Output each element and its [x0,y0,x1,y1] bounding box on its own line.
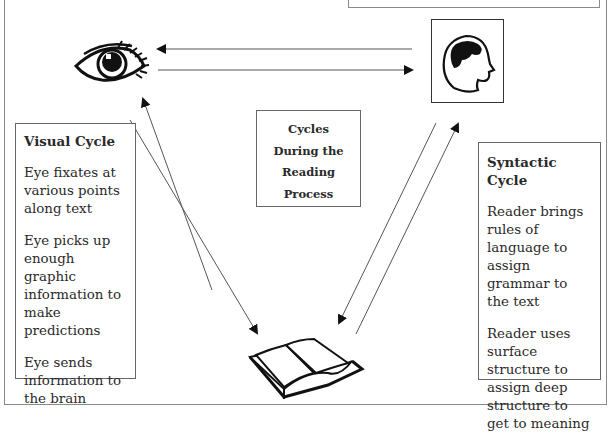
open-book-icon [244,327,370,403]
arrow-book-to-eye [143,99,212,290]
brain-node [431,19,504,103]
syntactic-cycle-point: Reader uses surface structure to assign … [487,325,592,433]
arrow-eye-to-book [130,120,257,333]
syntactic-cycle-title: Syntactic Cycle [487,153,592,189]
center-title-box: Cycles During the Reading Process [256,110,361,207]
visual-cycle-point: Eye picks up enough graphic information … [24,232,127,340]
syntactic-cycle-box: Syntactic Cycle Reader brings rules of l… [478,142,601,380]
head-brain-icon [432,20,502,101]
visual-cycle-point: Eye sends information to the brain [24,354,127,408]
eye-icon [72,36,152,86]
center-title-line: Reading [257,162,360,184]
visual-cycle-point: Eye fixates at various points along text [24,164,127,218]
visual-cycle-title: Visual Cycle [24,132,127,150]
center-title-line: During the [257,141,360,163]
center-title-line: Process [257,184,360,206]
arrow-book-to-brain [356,124,458,334]
syntactic-cycle-point: Reader brings rules of language to assig… [487,203,592,311]
visual-cycle-box: Visual Cycle Eye fixates at various poin… [15,123,136,379]
center-title-line: Cycles [257,119,360,141]
